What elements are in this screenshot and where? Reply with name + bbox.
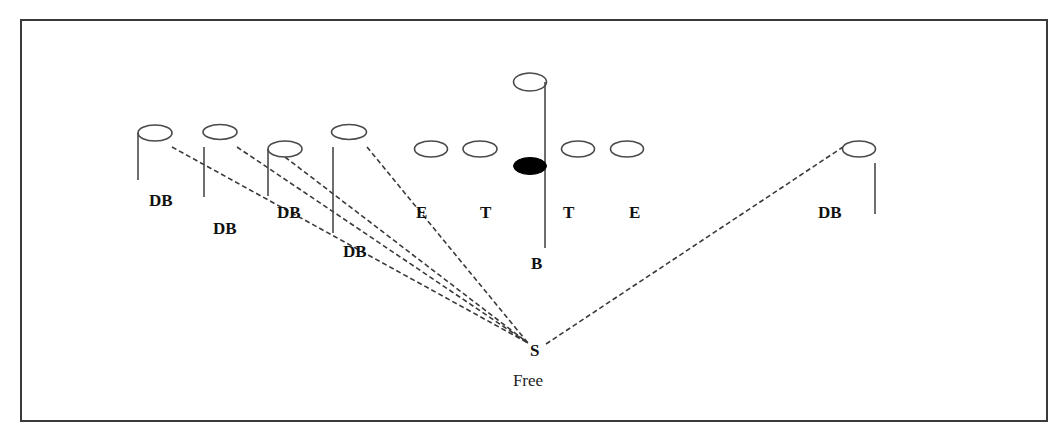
player-marker-icon <box>138 125 172 141</box>
position-label: E <box>416 203 427 222</box>
player-tackle-left: T <box>463 141 497 222</box>
position-label: DB <box>343 242 367 261</box>
position-label: E <box>629 203 640 222</box>
player-marker-icon <box>562 141 595 157</box>
player-marker-icon <box>203 125 237 140</box>
player-db1: DB <box>138 125 173 210</box>
coverage-route-db-right <box>546 147 843 344</box>
position-label: B <box>531 254 542 273</box>
player-db3: DB <box>268 141 302 222</box>
player-db4: DB <box>332 125 367 262</box>
formation-diagram: DBDBDBDBETBTEDB S Free <box>0 0 1062 433</box>
player-marker-icon <box>514 73 547 91</box>
safety-caption: Free <box>513 371 543 390</box>
player-end-right: E <box>611 141 644 222</box>
player-db2: DB <box>203 125 237 239</box>
coverage-route-db3 <box>285 157 528 343</box>
position-label: DB <box>818 203 842 222</box>
position-label: T <box>563 203 575 222</box>
player-marker-icon <box>463 141 497 157</box>
player-tackle-right: T <box>562 141 595 222</box>
free-safety: S Free <box>513 341 543 390</box>
player-marker-icon <box>268 141 302 157</box>
position-label: DB <box>213 219 237 238</box>
safety-label: S <box>530 341 539 360</box>
players-group: DBDBDBDBETBTEDB <box>138 73 876 273</box>
player-marker-icon <box>843 141 876 157</box>
position-label: DB <box>149 191 173 210</box>
player-marker-icon <box>415 141 448 157</box>
position-label: DB <box>277 203 301 222</box>
player-db-right: DB <box>818 141 876 222</box>
player-marker-icon <box>611 141 644 157</box>
coverage-routes <box>172 147 843 344</box>
coverage-route-db4 <box>367 147 528 343</box>
coverage-route-db2 <box>237 147 528 343</box>
football-icon <box>514 158 547 175</box>
player-end-left: E <box>415 141 448 222</box>
player-marker-icon <box>332 125 367 140</box>
position-label: T <box>480 203 492 222</box>
